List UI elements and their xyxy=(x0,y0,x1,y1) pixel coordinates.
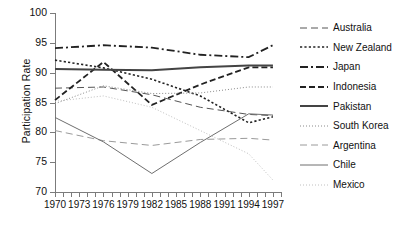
legend-label: Australia xyxy=(328,22,372,33)
x-tick xyxy=(216,193,217,197)
y-tick-label-text: 70 xyxy=(7,185,47,197)
x-tick xyxy=(225,193,226,197)
series-line-south-korea xyxy=(55,86,273,104)
legend-label: Chile xyxy=(328,159,356,170)
legend-swatch-icon xyxy=(300,180,328,190)
legend-swatch-icon xyxy=(300,121,328,131)
legend-swatch-icon xyxy=(300,140,328,150)
legend-swatch-icon xyxy=(300,160,328,170)
legend-label: Argentina xyxy=(328,140,376,151)
series-line-japan xyxy=(55,45,273,57)
legend-label: Pakistan xyxy=(328,101,371,112)
x-tick-label: 1997 xyxy=(256,199,290,210)
legend-label: Japan xyxy=(328,61,360,72)
x-tick xyxy=(200,193,201,197)
legend-swatch-icon xyxy=(300,101,328,111)
series-line-mexico xyxy=(55,96,273,180)
series-line-australia xyxy=(55,87,273,116)
x-tick xyxy=(103,193,104,197)
x-tick xyxy=(144,193,145,197)
y-tick-label-text: 100 xyxy=(7,6,47,18)
x-tick xyxy=(281,193,282,197)
x-tick xyxy=(55,193,56,197)
x-tick xyxy=(120,193,121,197)
x-tick xyxy=(152,193,153,197)
y-tick-label-text: 95 xyxy=(7,36,47,48)
x-tick xyxy=(79,193,80,197)
chart-figure: Participation Rate 707580859095100 19701… xyxy=(0,0,409,234)
plot-area xyxy=(55,13,281,192)
y-tick-label-text: 85 xyxy=(7,96,47,108)
x-tick xyxy=(241,193,242,197)
chart-legend: AustraliaNew ZealandJapanIndonesiaPakist… xyxy=(300,18,408,194)
x-tick xyxy=(128,193,129,197)
legend-label: Indonesia xyxy=(328,81,376,92)
x-tick xyxy=(168,193,169,197)
x-tick xyxy=(233,193,234,197)
x-tick xyxy=(71,193,72,197)
x-tick xyxy=(87,193,88,197)
legend-swatch-icon xyxy=(300,62,328,72)
x-tick xyxy=(208,193,209,197)
x-tick xyxy=(63,193,64,197)
x-tick xyxy=(249,193,250,197)
y-tick-label-text: 75 xyxy=(7,155,47,167)
legend-label: Mexico xyxy=(328,179,365,190)
legend-label: South Korea xyxy=(328,120,389,131)
x-tick xyxy=(136,193,137,197)
legend-item-argentina[interactable]: Argentina xyxy=(300,136,408,156)
legend-item-indonesia[interactable]: Indonesia xyxy=(300,77,408,97)
legend-item-chile[interactable]: Chile xyxy=(300,155,408,175)
x-tick xyxy=(184,193,185,197)
x-tick xyxy=(176,193,177,197)
y-tick-label-text: 90 xyxy=(7,66,47,78)
x-tick xyxy=(112,193,113,197)
legend-item-mexico[interactable]: Mexico xyxy=(300,175,408,195)
x-tick xyxy=(265,193,266,197)
legend-item-australia[interactable]: Australia xyxy=(300,18,408,38)
legend-swatch-icon xyxy=(300,23,328,33)
legend-item-new-zealand[interactable]: New Zealand xyxy=(300,38,408,58)
x-tick xyxy=(273,193,274,197)
x-tick xyxy=(192,193,193,197)
x-tick xyxy=(95,193,96,197)
y-tick-label-text: 80 xyxy=(7,125,47,137)
legend-item-pakistan[interactable]: Pakistan xyxy=(300,96,408,116)
legend-item-japan[interactable]: Japan xyxy=(300,57,408,77)
legend-label: New Zealand xyxy=(328,42,392,53)
legend-swatch-icon xyxy=(300,82,328,92)
series-line-argentina xyxy=(55,131,273,146)
x-tick xyxy=(257,193,258,197)
legend-item-south-korea[interactable]: South Korea xyxy=(300,116,408,136)
x-tick xyxy=(160,193,161,197)
legend-swatch-icon xyxy=(300,42,328,52)
